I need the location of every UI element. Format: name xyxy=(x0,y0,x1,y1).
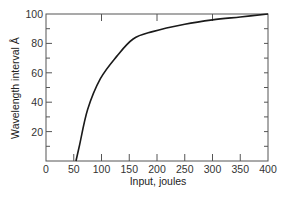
x-tick-label: 300 xyxy=(204,163,222,175)
y-tick-labels: 20406080100 xyxy=(25,8,43,138)
x-tick-label: 400 xyxy=(259,163,277,175)
y-axis-title: Wavelength interval Å xyxy=(9,37,21,139)
x-tick-label: 350 xyxy=(231,163,249,175)
x-tick-label: 0 xyxy=(43,163,49,175)
y-tick-label: 40 xyxy=(31,96,43,108)
y-tick-label: 20 xyxy=(31,126,43,138)
x-axis-title: Input, joules xyxy=(130,175,187,187)
x-tick-label: 200 xyxy=(148,163,166,175)
x-tick-label: 250 xyxy=(176,163,194,175)
x-tick-label: 150 xyxy=(120,163,138,175)
y-tick-label: 80 xyxy=(31,37,43,49)
y-tick-label: 60 xyxy=(31,67,43,79)
data-curve xyxy=(76,14,268,161)
x-tick-label: 50 xyxy=(68,163,80,175)
line-chart: 050100150200250300350400 20406080100 Inp… xyxy=(0,0,283,197)
x-tick-labels: 050100150200250300350400 xyxy=(43,163,277,175)
plot-border xyxy=(46,14,268,161)
plot-frame xyxy=(46,14,268,161)
y-tick-label: 100 xyxy=(25,8,43,20)
axis-ticks xyxy=(46,14,268,161)
x-tick-label: 100 xyxy=(93,163,111,175)
